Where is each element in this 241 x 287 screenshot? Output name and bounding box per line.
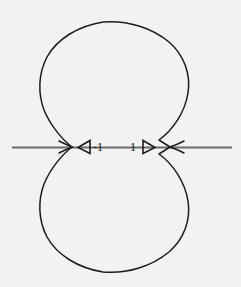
label-positive-one: 1: [130, 141, 136, 153]
curve-plot-canvas: [0, 0, 241, 287]
upper-lobe-curve: [40, 22, 189, 147]
lower-lobe-curve: [40, 147, 189, 272]
label-negative-one: -1: [93, 141, 103, 153]
figure-container: -1 1: [0, 0, 241, 287]
